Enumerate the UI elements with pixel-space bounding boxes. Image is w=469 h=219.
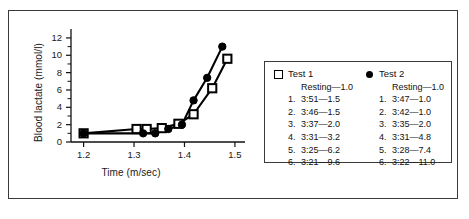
data-point-marker-test-2 — [203, 74, 210, 81]
legend-row-index: 6. — [288, 156, 301, 169]
data-point-marker-test-2 — [219, 43, 226, 50]
x-tick-label: 1.5 — [220, 149, 250, 160]
legend-rows-test-2: Resting—1.01.3:47—1.02.3:42—1.03.3:35—2.… — [365, 81, 444, 169]
legend-column-test-2: Test 2 Resting—1.01.3:47—1.02.3:42—1.03.… — [365, 68, 444, 169]
legend-row: 3.3:37—2.0 — [288, 118, 353, 131]
legend-row-value: 3:25—6.2 — [301, 144, 340, 157]
legend-row-index: 5. — [288, 144, 301, 157]
legend-row: 6.3:22—11.0 — [379, 156, 444, 169]
legend-row-value: Resting—1.0 — [301, 81, 353, 94]
legend-row-value: 3:21—9.6 — [301, 156, 340, 169]
data-point-marker-test-2 — [190, 97, 197, 104]
legend-row-index: 1. — [379, 93, 392, 106]
data-point-marker-test-1 — [189, 110, 197, 118]
legend-row-index: 3. — [379, 118, 392, 131]
series-line-test-1 — [84, 59, 228, 134]
y-tick-label: 0 — [44, 136, 62, 147]
legend-row-value: 3:22—11.0 — [392, 156, 435, 169]
figure-outer-frame: Blood lactate (mmol/l) Time (m/sec) 0246… — [8, 10, 458, 199]
x-axis-title: Time (m/sec) — [71, 167, 191, 178]
legend-row-value: 3:31—4.8 — [392, 131, 431, 144]
data-point-marker-test-2 — [178, 121, 185, 128]
legend-row-index: 2. — [288, 106, 301, 119]
legend-row-value: Resting—1.0 — [392, 81, 444, 94]
series-line-test-2 — [84, 47, 223, 134]
legend-row: 5.3:25—6.2 — [288, 144, 353, 157]
legend-row-value: 3:47—1.0 — [392, 93, 431, 106]
legend-row-index: 4. — [288, 131, 301, 144]
y-tick-label: 10 — [44, 49, 62, 60]
plot-area: Blood lactate (mmol/l) Time (m/sec) 0246… — [19, 25, 249, 190]
legend-row: Resting—1.0 — [288, 81, 353, 94]
legend-box: Test 1 Resting—1.01.3:51—1.52.3:46—1.53.… — [264, 61, 452, 163]
x-tick-label: 1.3 — [119, 149, 149, 160]
legend-row: Resting—1.0 — [379, 81, 444, 94]
data-point-marker-test-1 — [208, 84, 216, 92]
x-tick-label: 1.4 — [169, 149, 199, 160]
data-point-marker-test-2 — [80, 130, 87, 137]
legend-column-test-1: Test 1 Resting—1.01.3:51—1.52.3:46—1.53.… — [274, 68, 353, 169]
data-point-marker-test-2 — [165, 125, 172, 132]
legend-row: 4.3:31—4.8 — [379, 131, 444, 144]
legend-row: 2.3:46—1.5 — [288, 106, 353, 119]
legend-row: 6.3:21—9.6 — [288, 156, 353, 169]
legend-row: 4.3:31—3.2 — [288, 131, 353, 144]
filled-circle-marker-icon — [366, 71, 373, 78]
legend-header-test-1: Test 1 — [274, 68, 353, 81]
data-point-marker-test-2 — [152, 130, 159, 137]
open-square-marker-icon — [274, 70, 283, 79]
legend-row: 5.3:28—7.4 — [379, 144, 444, 157]
legend-row: 1.3:51—1.5 — [288, 93, 353, 106]
legend-row-index: 1. — [288, 93, 301, 106]
legend-title-test-1: Test 1 — [288, 68, 313, 81]
legend-row-index: 3. — [288, 118, 301, 131]
legend-row-value: 3:31—3.2 — [301, 131, 340, 144]
legend-row: 1.3:47—1.0 — [379, 93, 444, 106]
legend-title-test-2: Test 2 — [379, 68, 404, 81]
data-point-marker-test-1 — [223, 55, 231, 63]
figure-canvas: Blood lactate (mmol/l) Time (m/sec) 0246… — [0, 0, 469, 219]
x-tick-label: 1.2 — [69, 149, 99, 160]
y-axis-title: Blood lactate (mmol/l) — [33, 33, 44, 153]
legend-row-value: 3:28—7.4 — [392, 144, 431, 157]
y-tick-label: 6 — [44, 84, 62, 95]
legend-row: 3.3:35—2.0 — [379, 118, 444, 131]
legend-row-value: 3:37—2.0 — [301, 118, 340, 131]
legend-row-value: 3:42—1.0 — [392, 106, 431, 119]
legend-row-index: 5. — [379, 144, 392, 157]
y-tick-label: 2 — [44, 119, 62, 130]
y-tick-label: 4 — [44, 101, 62, 112]
legend-row: 2.3:42—1.0 — [379, 106, 444, 119]
legend-row-value: 3:35—2.0 — [392, 118, 431, 131]
legend-row-index: 4. — [379, 131, 392, 144]
legend-row-value: 3:51—1.5 — [301, 93, 340, 106]
legend-row-index: 2. — [379, 106, 392, 119]
legend-rows-test-1: Resting—1.01.3:51—1.52.3:46—1.53.3:37—2.… — [274, 81, 353, 169]
legend-header-test-2: Test 2 — [365, 68, 444, 81]
legend-row-index: 6. — [379, 156, 392, 169]
y-tick-label: 8 — [44, 67, 62, 78]
legend-row-value: 3:46—1.5 — [301, 106, 340, 119]
data-point-marker-test-2 — [139, 130, 146, 137]
y-tick-label: 12 — [44, 32, 62, 43]
